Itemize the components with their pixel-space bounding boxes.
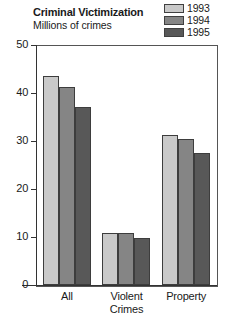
- legend-swatch-1993: [164, 4, 184, 13]
- bar-group-all: [37, 45, 97, 285]
- x-label-line: All: [37, 290, 97, 303]
- chart-title: Criminal Victimization: [33, 6, 163, 19]
- x-label-violent-crimes: ViolentCrimes: [97, 290, 157, 316]
- bars-layer: [37, 45, 216, 285]
- legend-swatch-1995: [164, 28, 184, 37]
- legend-label-1993: 1993: [187, 3, 210, 14]
- legend-item-1994: 1994: [164, 15, 226, 26]
- y-tick-label: 20: [16, 182, 28, 195]
- bar-property-1994: [178, 139, 194, 285]
- y-tick-mark: [31, 45, 36, 46]
- bar-chart: Criminal Victimization Millions of crime…: [0, 0, 228, 328]
- bar-all-1995: [75, 107, 91, 285]
- bar-group-property: [156, 45, 216, 285]
- x-axis-category-labels: AllViolentCrimesProperty: [36, 290, 217, 326]
- y-tick-mark: [31, 93, 36, 94]
- y-tick-mark: [31, 141, 36, 142]
- y-tick-label: 40: [16, 86, 28, 99]
- y-tick-mark: [31, 285, 36, 286]
- chart-subtitle: Millions of crimes: [33, 19, 163, 32]
- bar-property-1995: [194, 153, 210, 285]
- bar-violent-crimes-1994: [118, 233, 134, 285]
- bar-violent-crimes-1995: [134, 238, 150, 285]
- bar-all-1994: [59, 87, 75, 285]
- x-axis-line: [22, 285, 217, 286]
- bar-all-1993: [43, 76, 59, 285]
- x-label-property: Property: [156, 290, 216, 303]
- x-label-line: Property: [156, 290, 216, 303]
- legend-label-1995: 1995: [187, 27, 210, 38]
- y-tick-label: 0: [22, 278, 28, 291]
- y-tick-label: 30: [16, 134, 28, 147]
- y-tick-mark: [31, 237, 36, 238]
- bar-violent-crimes-1993: [102, 233, 118, 285]
- x-label-line: Violent: [97, 290, 157, 303]
- chart-legend: 199319941995: [164, 3, 226, 39]
- x-label-line: Crimes: [97, 303, 157, 316]
- x-label-all: All: [37, 290, 97, 303]
- bar-group-violent-crimes: [97, 45, 157, 285]
- legend-item-1995: 1995: [164, 27, 226, 38]
- bar-property-1993: [162, 135, 178, 285]
- title-block: Criminal Victimization Millions of crime…: [33, 6, 163, 32]
- y-tick-mark: [31, 189, 36, 190]
- legend-swatch-1994: [164, 16, 184, 25]
- y-tick-label: 10: [16, 230, 28, 243]
- y-tick-label: 50: [16, 38, 28, 51]
- legend-label-1994: 1994: [187, 15, 210, 26]
- legend-item-1993: 1993: [164, 3, 226, 14]
